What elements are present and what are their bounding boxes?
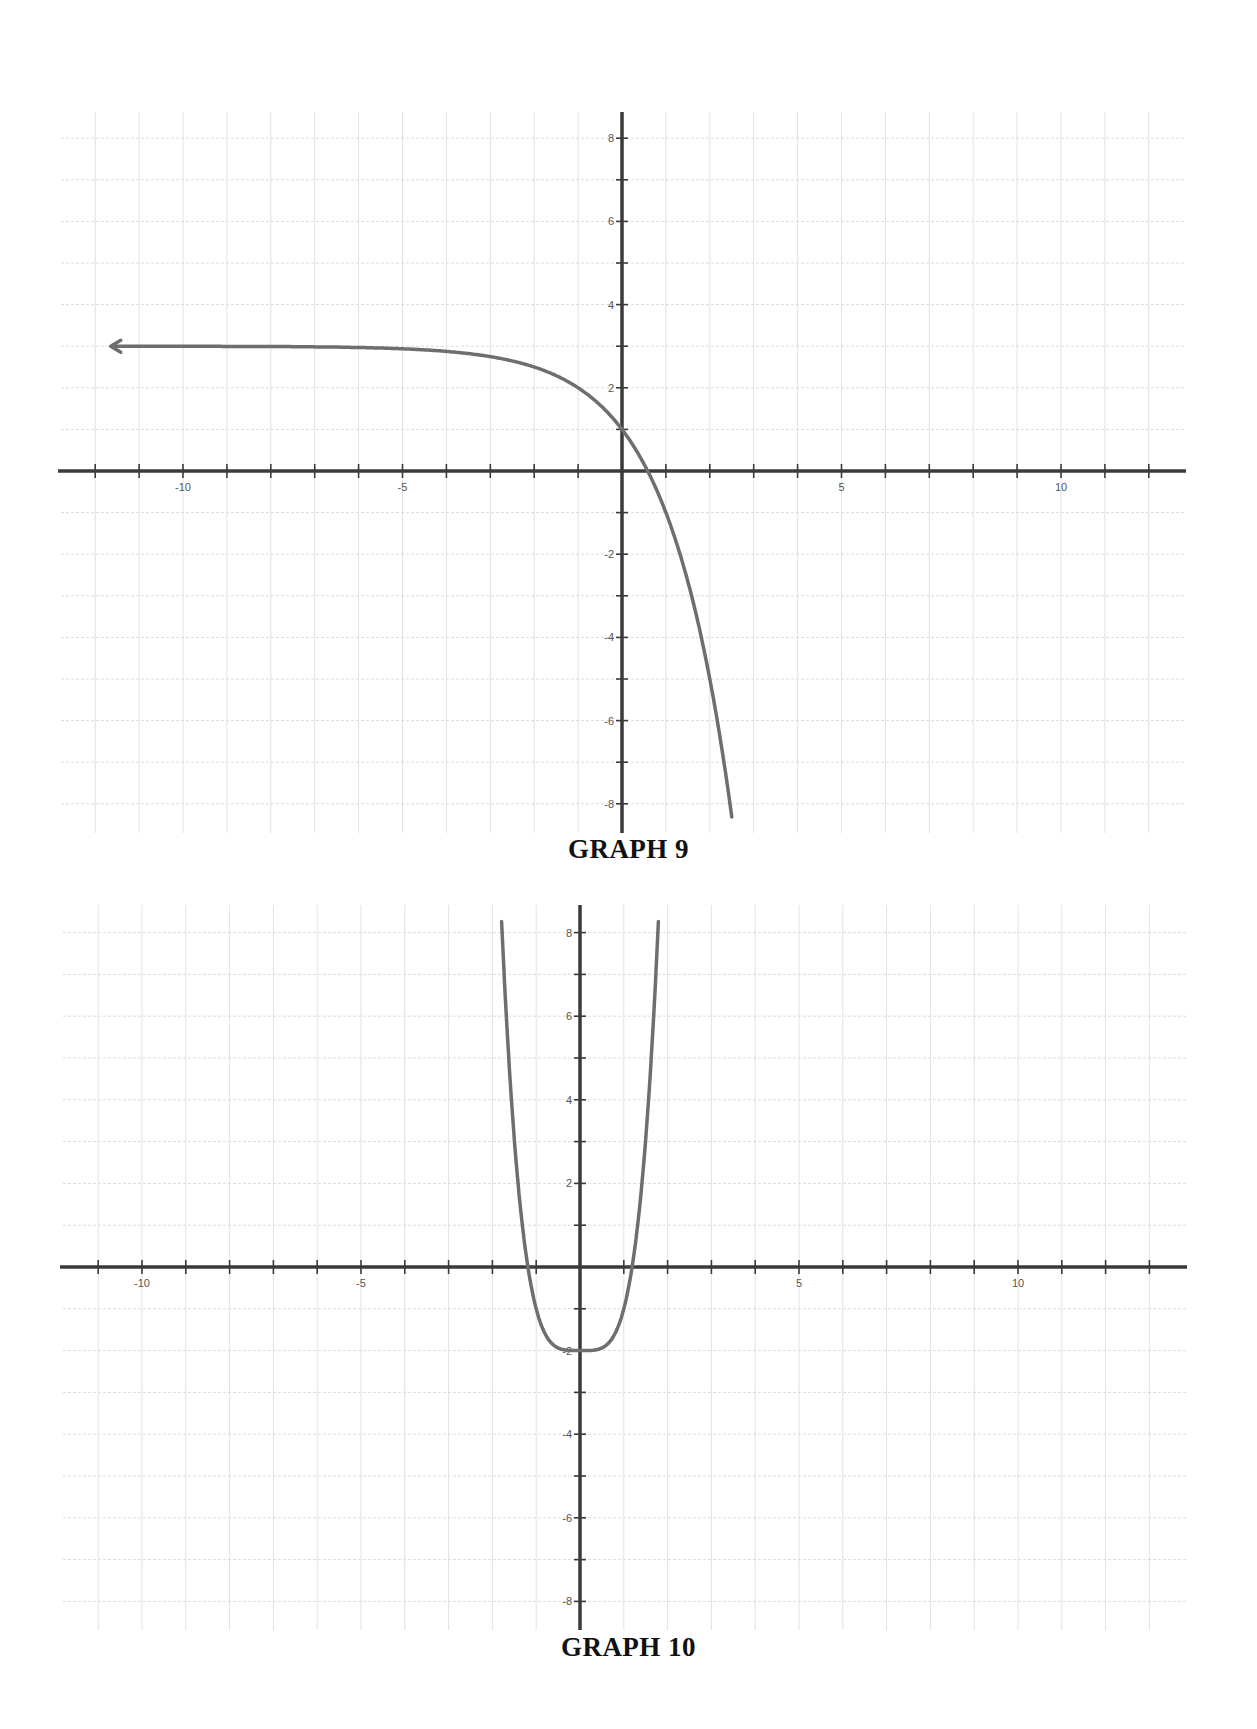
y-tick-label: 6	[608, 215, 614, 227]
x-tick-label: -10	[134, 1277, 150, 1289]
x-tick-label: 10	[1055, 481, 1067, 493]
x-tick-label: 5	[796, 1277, 802, 1289]
y-tick-label: -4	[604, 631, 614, 643]
y-tick-label: 2	[608, 382, 614, 394]
y-tick-label: 8	[566, 927, 572, 939]
x-tick-label: -5	[398, 481, 408, 493]
y-tick-label: 2	[566, 1177, 572, 1189]
y-tick-label: -8	[604, 798, 614, 810]
x-tick-label: -5	[356, 1277, 366, 1289]
y-tick-label: 6	[566, 1010, 572, 1022]
y-tick-label: -6	[562, 1512, 572, 1524]
y-tick-label: 4	[608, 299, 614, 311]
y-tick-label: 8	[608, 132, 614, 144]
graph-10-caption: GRAPH 10	[0, 1632, 1257, 1663]
x-tick-label: -10	[175, 481, 191, 493]
y-tick-label: 4	[566, 1094, 572, 1106]
y-tick-label: -8	[562, 1595, 572, 1607]
graph-9-plot: -10-55108642-2-4-6-8	[58, 112, 1186, 833]
y-tick-label: -6	[604, 715, 614, 727]
graph-10-plot: -10-55108642-2-4-6-8	[60, 905, 1187, 1630]
graph-9-caption: GRAPH 9	[0, 834, 1257, 865]
x-tick-label: 10	[1012, 1277, 1024, 1289]
y-tick-label: -4	[562, 1428, 572, 1440]
x-tick-label: 5	[838, 481, 844, 493]
y-tick-label: -2	[604, 548, 614, 560]
function-curve	[113, 346, 732, 817]
